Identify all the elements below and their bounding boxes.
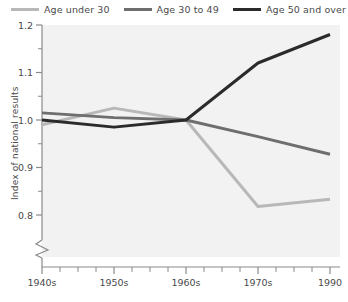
x-axis-ticks — [42, 267, 330, 274]
x-tick-label: 1940s — [27, 277, 56, 288]
series-line-age-50-and-over — [42, 35, 330, 128]
y-tick-label: 1.1 — [18, 67, 33, 78]
x-axis-tick-labels: 1940s1950s1960s1970s1990 — [27, 277, 342, 288]
data-series-lines — [42, 35, 330, 207]
x-tick-label: 1970s — [243, 277, 272, 288]
y-axis-ticks — [36, 25, 42, 215]
y-tick-label: 0.9 — [18, 162, 33, 173]
y-axis-tick-labels: 0.80.91.01.11.2 — [18, 20, 33, 221]
x-tick-label: 1950s — [99, 277, 128, 288]
chart-container: Age under 30 Age 30 to 49 Age 50 and ove… — [0, 0, 348, 302]
y-tick-label: 1.0 — [18, 115, 33, 126]
x-tick-label: 1960s — [171, 277, 200, 288]
x-tick-label: 1990 — [318, 277, 342, 288]
y-tick-label: 0.8 — [18, 210, 33, 221]
chart-svg: 0.80.91.01.11.2 1940s1950s1960s1970s1990 — [0, 0, 348, 302]
y-tick-label: 1.2 — [18, 20, 33, 31]
